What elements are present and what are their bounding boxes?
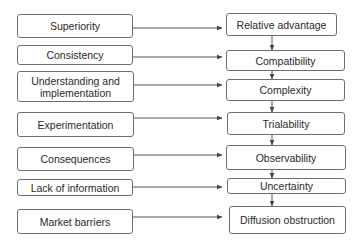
node-consequences: Consequences: [17, 147, 134, 171]
diagram-canvas: Superiority Consistency Understanding an…: [0, 0, 361, 246]
node-trialability: Trialability: [227, 112, 345, 135]
node-complexity: Complexity: [226, 79, 345, 101]
node-label: Consequences: [40, 153, 110, 165]
node-market-barriers: Market barriers: [17, 209, 133, 234]
node-label: Consistency: [46, 49, 103, 61]
node-diffusion-obstruction: Diffusion obstruction: [229, 206, 346, 234]
node-superiority: Superiority: [17, 14, 133, 38]
node-label: Superiority: [50, 20, 100, 32]
node-uncertainty: Uncertainty: [227, 178, 346, 194]
node-label: Observability: [256, 152, 317, 164]
node-relative-advantage: Relative advantage: [226, 13, 337, 36]
node-label: Diffusion obstruction: [240, 214, 335, 226]
node-lack-of-information: Lack of information: [17, 179, 133, 196]
node-label: Compatibility: [255, 55, 315, 67]
node-label: Trialability: [263, 118, 310, 130]
node-experimentation: Experimentation: [17, 112, 134, 137]
node-label: Complexity: [260, 84, 312, 96]
node-label: Relative advantage: [237, 19, 327, 31]
node-understanding-and-implementation: Understanding and implementation: [17, 71, 134, 102]
node-label: Experimentation: [38, 119, 114, 131]
node-label: Market barriers: [40, 216, 111, 228]
node-label: Uncertainty: [260, 180, 313, 192]
node-consistency: Consistency: [17, 45, 133, 65]
node-observability: Observability: [226, 145, 346, 170]
node-label: Lack of information: [31, 182, 120, 194]
node-compatibility: Compatibility: [226, 50, 345, 71]
node-label: Understanding and implementation: [21, 75, 130, 99]
